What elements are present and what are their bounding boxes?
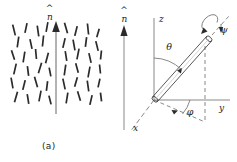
angle-label-theta: θ <box>166 41 172 52</box>
nematic-rod <box>98 79 100 88</box>
nematic-rod <box>46 53 49 64</box>
nematic-rod <box>75 77 78 87</box>
angle-psi: ψ <box>201 15 229 35</box>
nematic-rod <box>90 95 92 105</box>
nematic-rod <box>88 67 90 78</box>
director-arrow-b <box>120 25 127 130</box>
figure-root: ^ n (a) ^ n <box>0 0 237 162</box>
nematic-rod <box>64 65 66 76</box>
nematic-rod <box>34 77 37 88</box>
nematic-rod <box>14 64 16 75</box>
nematic-rod <box>14 92 17 103</box>
nematic-rod <box>63 38 65 48</box>
director-arrow-a <box>52 21 60 114</box>
nematic-rod <box>23 80 25 90</box>
nematic-rod <box>63 79 65 90</box>
nematic-rod <box>85 37 86 47</box>
nematic-rod <box>27 94 29 104</box>
nematic-rod <box>64 23 67 34</box>
panel-b-canvas: ^ n z y x <box>108 0 237 140</box>
nematic-rod <box>89 53 91 63</box>
nematic-rod <box>96 41 98 51</box>
nematic-rod <box>49 68 51 77</box>
axis-z: z <box>154 14 164 100</box>
angle-label-phi: φ <box>187 106 194 117</box>
nematic-rod <box>66 93 68 104</box>
director-letter-b: n <box>122 14 128 24</box>
nematic-rod <box>100 93 101 102</box>
nematic-rod <box>11 50 14 60</box>
director-letter-a: n <box>47 12 53 22</box>
caption-panel-a: (a) <box>42 141 55 151</box>
nematic-rod <box>25 23 27 33</box>
director-label-b: ^ n <box>120 5 128 24</box>
axis-label-z: z <box>158 14 164 24</box>
nematic-rod <box>37 26 39 37</box>
panel-a-canvas: ^ n <box>0 0 118 140</box>
nematic-rod <box>49 96 51 105</box>
nematic-rod <box>77 49 79 60</box>
nematic-rod <box>39 91 41 102</box>
nematic-rod <box>46 22 48 32</box>
nematic-rod <box>42 36 43 47</box>
nematic-rod <box>101 51 102 60</box>
axis-label-y: y <box>218 103 225 113</box>
nematic-rod <box>30 39 32 49</box>
nematic-rod <box>27 66 28 76</box>
nematic-rod <box>46 81 47 91</box>
nematic-rod <box>78 91 81 101</box>
angle-theta: θ <box>154 41 182 70</box>
nematic-rod <box>11 78 13 89</box>
nematic-rod <box>36 49 37 59</box>
nematic-rod <box>73 40 75 51</box>
nematic-rod <box>75 26 77 36</box>
nematic-rod <box>38 63 41 74</box>
director-label-a: ^ n <box>46 3 54 22</box>
axis-label-x: x <box>133 123 138 133</box>
panel-b-euler-angles: ^ n z y x <box>108 0 237 162</box>
nematic-rod <box>97 29 99 38</box>
nematic-rod <box>87 81 89 92</box>
rod-cylinder <box>151 35 213 103</box>
nematic-rod <box>100 65 101 74</box>
projection-line <box>154 100 205 122</box>
nematic-rod <box>65 51 67 61</box>
nematic-rod <box>23 52 25 63</box>
nematic-rod <box>17 37 19 48</box>
nematic-rod <box>13 25 16 36</box>
axis-x: x <box>130 100 154 133</box>
nematic-rod <box>76 63 79 73</box>
nematic-rod <box>87 24 88 35</box>
panel-a-nematic-rods: ^ n (a) <box>0 0 118 162</box>
